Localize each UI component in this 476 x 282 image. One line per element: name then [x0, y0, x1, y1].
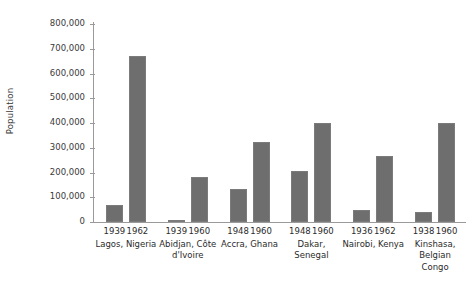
y-axis-tick-mark [90, 222, 95, 223]
x-axis-group-label: 19361962Nairobi, Kenya [342, 226, 404, 250]
y-axis-tick-label: 600,000 [50, 68, 85, 78]
bar [230, 189, 247, 222]
bar-group-bars [95, 24, 157, 222]
bar [415, 212, 432, 222]
bar [129, 56, 146, 222]
x-axis-group-label: 19381960Kinshasa, Belgian Congo [404, 226, 466, 273]
y-axis-tick-label: 500,000 [50, 92, 85, 102]
y-axis-title-label: Population [5, 88, 15, 135]
bar [353, 210, 370, 222]
y-axis-tick-label: 100,000 [50, 191, 85, 201]
x-axis-year-label: 1960 [311, 226, 334, 238]
population-bar-chart: Population 800,000700,000600,000500,0004… [0, 0, 476, 282]
plot-area: 19391962Lagos, Nigeria19391960Abidjan, C… [95, 24, 466, 222]
x-axis-group-label: 19481960Dakar, Senegal [281, 226, 343, 262]
bar-group: 19391962Lagos, Nigeria [95, 24, 157, 222]
bar [253, 142, 270, 222]
bar [291, 171, 308, 222]
x-axis-year-row: 19361962 [342, 226, 404, 238]
x-axis-year-label: 1948 [288, 226, 311, 238]
x-axis-year-label: 1960 [250, 226, 273, 238]
x-axis-year-label: 1962 [373, 226, 396, 238]
x-axis-group-label: 19481960Accra, Ghana [219, 226, 281, 250]
x-axis-year-label: 1939 [165, 226, 188, 238]
x-axis-place-label: Abidjan, Côte d'Ivoire [157, 239, 219, 262]
x-axis-year-row: 19391962 [95, 226, 157, 238]
y-axis-title: Population [2, 0, 18, 222]
y-axis-tick-label: 300,000 [50, 142, 85, 152]
x-axis-place-label: Dakar, Senegal [281, 239, 343, 262]
x-axis-place-label: Kinshasa, Belgian Congo [404, 239, 466, 274]
x-axis-year-label: 1962 [126, 226, 149, 238]
bar [191, 177, 208, 222]
y-axis-tick-label: 800,000 [50, 18, 85, 28]
x-axis-group-label: 19391960Abidjan, Côte d'Ivoire [157, 226, 219, 262]
bar-group-bars [342, 24, 404, 222]
bar-group-bars [281, 24, 343, 222]
x-axis-place-label: Accra, Ghana [219, 239, 281, 251]
x-axis-year-label: 1960 [188, 226, 211, 238]
x-axis-year-label: 1936 [350, 226, 373, 238]
x-axis-group-label: 19391962Lagos, Nigeria [95, 226, 157, 250]
bar [106, 205, 123, 222]
x-axis-year-row: 19381960 [404, 226, 466, 238]
x-axis-line [93, 222, 466, 223]
y-axis-tick-label: 700,000 [50, 43, 85, 53]
y-axis-tick-label: 400,000 [50, 117, 85, 127]
bar [314, 123, 331, 222]
y-axis-tick-label: 0 [80, 216, 85, 226]
x-axis-place-label: Lagos, Nigeria [95, 239, 157, 251]
bar-group: 19381960Kinshasa, Belgian Congo [404, 24, 466, 222]
bar-group: 19481960Accra, Ghana [219, 24, 281, 222]
bar-group: 19391960Abidjan, Côte d'Ivoire [157, 24, 219, 222]
bar [376, 156, 393, 222]
bar-group: 19361962Nairobi, Kenya [342, 24, 404, 222]
x-axis-year-label: 1938 [412, 226, 435, 238]
x-axis-place-label: Nairobi, Kenya [342, 239, 404, 251]
x-axis-year-row: 19391960 [157, 226, 219, 238]
x-axis-year-label: 1960 [435, 226, 458, 238]
bar-group-bars [157, 24, 219, 222]
x-axis-year-row: 19481960 [219, 226, 281, 238]
bar-group: 19481960Dakar, Senegal [281, 24, 343, 222]
x-axis-year-label: 1939 [103, 226, 126, 238]
bar-group-bars [219, 24, 281, 222]
y-axis-tick-label: 200,000 [50, 167, 85, 177]
bar [168, 220, 185, 222]
x-axis-year-label: 1948 [227, 226, 250, 238]
bar [438, 123, 455, 222]
x-axis-year-row: 19481960 [281, 226, 343, 238]
bar-group-bars [404, 24, 466, 222]
